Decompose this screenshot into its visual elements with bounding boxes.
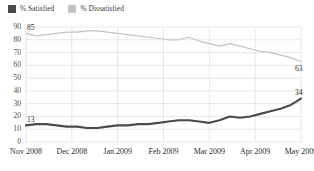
legend-swatch-satisfied	[8, 5, 16, 13]
y-tick-label: 10	[14, 125, 22, 133]
legend-item-satisfied: % Satisfied	[8, 5, 54, 13]
y-tick-label: 90	[14, 23, 22, 31]
plot-svg	[26, 27, 301, 142]
y-tick-label: 70	[14, 49, 22, 57]
data-label-satisfied-end: 34	[295, 89, 303, 97]
legend-label-dissatisfied: % Dissatisfied	[80, 5, 124, 13]
data-label-dissatisfied-start: 85	[27, 24, 35, 32]
y-axis: 0102030405060708090	[0, 27, 24, 142]
line-chart: % Satisfied % Dissatisfied 0102030405060…	[0, 0, 314, 171]
y-tick-label: 30	[14, 100, 22, 108]
data-label-satisfied-start: 13	[27, 116, 35, 124]
x-tick-label: May 2009	[285, 148, 314, 156]
x-tick-label: Nov 2008	[10, 148, 42, 156]
y-tick-label: 20	[14, 113, 22, 121]
y-tick-label: 0	[17, 138, 21, 146]
y-tick-label: 80	[14, 36, 22, 44]
x-tick-label: Apr 2009	[240, 148, 270, 156]
x-tick-label: Feb 2009	[149, 148, 179, 156]
chart-legend: % Satisfied % Dissatisfied	[8, 2, 124, 16]
legend-item-dissatisfied: % Dissatisfied	[68, 5, 124, 13]
y-tick-label: 50	[14, 74, 22, 82]
y-tick-label: 40	[14, 87, 22, 95]
plot-area	[26, 27, 301, 142]
x-tick-label: Mar 2009	[194, 148, 225, 156]
legend-swatch-dissatisfied	[68, 5, 76, 13]
x-axis: Nov 2008Dec 2008Jan 2009Feb 2009Mar 2009…	[0, 148, 314, 164]
x-tick-label: Dec 2008	[56, 148, 87, 156]
y-tick-label: 60	[14, 62, 22, 70]
data-label-dissatisfied-end: 63	[295, 65, 303, 73]
x-tick-label: Jan 2009	[103, 148, 132, 156]
legend-label-satisfied: % Satisfied	[20, 5, 54, 13]
